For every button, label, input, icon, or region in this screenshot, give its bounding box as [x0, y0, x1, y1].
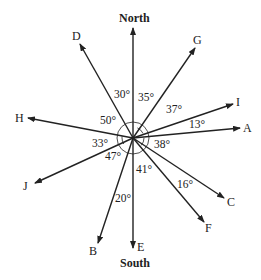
- vector-label-a: A: [243, 122, 252, 134]
- vector-label-i: I: [236, 96, 240, 108]
- vector-label-d: D: [72, 30, 81, 42]
- angle-h-j: 33°: [92, 138, 108, 150]
- angle-north-g: 35°: [138, 92, 154, 104]
- vector-label-b: B: [89, 245, 97, 257]
- vector-lines: [0, 0, 261, 280]
- compass-diagram: North South D G I A H J B E F C 30° 35° …: [0, 0, 261, 280]
- south-label: South: [120, 257, 150, 269]
- vector-label-j: J: [23, 180, 28, 192]
- angle-b-e: 20°: [115, 193, 131, 205]
- f-vector: [133, 138, 204, 222]
- angle-g-i: 37°: [166, 104, 182, 116]
- angle-a-c: 38°: [154, 139, 170, 151]
- angle-h-d: 50°: [100, 115, 116, 127]
- vector-label-g: G: [193, 34, 202, 46]
- angle-i-a: 13°: [189, 119, 205, 131]
- angle-f-c: 16°: [177, 179, 193, 191]
- angle-j-b: 47°: [105, 151, 121, 163]
- vector-label-f: F: [205, 222, 212, 234]
- vector-label-e: E: [137, 241, 144, 253]
- north-label: North: [119, 12, 150, 24]
- vector-label-c: C: [227, 196, 235, 208]
- angle-north-d: 30°: [114, 89, 130, 101]
- vector-label-h: H: [15, 112, 24, 124]
- angle-e-f: 41°: [136, 164, 152, 176]
